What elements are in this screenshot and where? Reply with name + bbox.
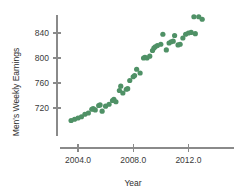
data-point [147, 54, 152, 59]
data-point [118, 84, 123, 89]
y-axis: 720760800840 [35, 15, 61, 136]
y-tick-label: 760 [35, 78, 49, 88]
x-tick-label: 2008.0 [120, 155, 146, 165]
data-points-layer [69, 14, 205, 123]
data-point [171, 39, 176, 44]
y-tick-label: 720 [35, 103, 49, 113]
x-tick-label: 2004.0 [65, 155, 91, 165]
data-point [172, 33, 177, 38]
data-point [132, 73, 137, 78]
data-point [97, 102, 102, 107]
scatter-chart: Men's Weekly Earnings 720760800840 2004.… [0, 0, 243, 194]
data-point [193, 31, 198, 36]
data-point [164, 47, 169, 52]
data-point [200, 17, 205, 22]
y-tick-label: 840 [35, 28, 49, 38]
x-axis: 2004.02008.02012.0 [60, 144, 234, 165]
data-point [178, 42, 183, 47]
data-point [100, 109, 105, 114]
data-point [138, 70, 143, 75]
x-axis-title: Year [124, 178, 141, 188]
data-point [113, 99, 118, 104]
data-point [191, 14, 196, 19]
chart-canvas: Men's Weekly Earnings 720760800840 2004.… [0, 0, 243, 194]
data-point [160, 32, 165, 37]
data-point [93, 107, 98, 112]
x-tick-label: 2012.0 [175, 155, 201, 165]
data-point [158, 42, 163, 47]
y-axis-title: Men's Weekly Earnings [11, 48, 21, 136]
data-point [125, 86, 130, 91]
y-tick-label: 800 [35, 53, 49, 63]
